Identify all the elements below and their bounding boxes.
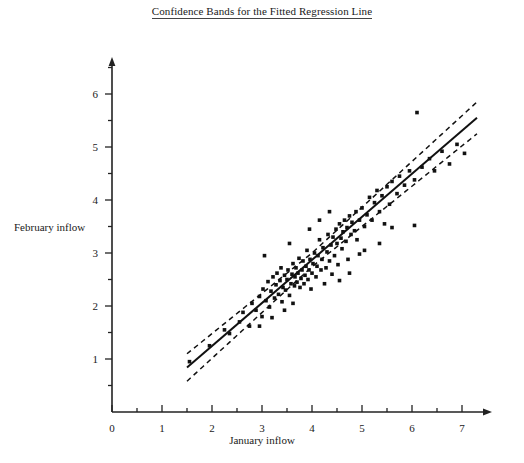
data-point — [310, 271, 314, 275]
data-point — [271, 275, 275, 279]
data-point — [254, 308, 258, 312]
data-point — [278, 279, 282, 283]
data-point — [260, 315, 264, 319]
data-point — [363, 225, 367, 229]
x-axis-label: January inflow — [0, 434, 524, 446]
data-point — [283, 308, 287, 312]
data-point — [284, 288, 288, 292]
fitted-regression-line — [187, 118, 477, 368]
data-point — [308, 227, 312, 231]
data-point — [329, 243, 333, 247]
data-point — [275, 271, 279, 275]
data-point — [413, 224, 417, 228]
data-point — [363, 249, 367, 253]
data-point — [300, 268, 304, 272]
upper-confidence-band — [187, 102, 477, 354]
data-point — [307, 268, 311, 272]
data-point — [433, 169, 437, 173]
y-axis-tick-label: 2 — [93, 300, 99, 312]
data-point — [375, 189, 379, 193]
data-point — [388, 202, 392, 206]
data-point — [365, 213, 369, 217]
data-point — [268, 305, 272, 309]
data-point — [338, 222, 342, 226]
data-point — [378, 210, 382, 214]
data-point — [297, 257, 301, 261]
data-point — [321, 246, 325, 250]
data-point — [288, 294, 292, 298]
data-point — [415, 111, 419, 115]
data-point — [319, 268, 323, 272]
data-point — [279, 266, 283, 270]
data-point — [408, 169, 412, 173]
data-point — [373, 201, 377, 205]
y-axis-tick-label: 5 — [93, 141, 99, 153]
x-axis-tick-label: 5 — [359, 422, 365, 434]
data-point — [350, 220, 354, 224]
data-point — [298, 286, 302, 290]
data-point — [328, 259, 332, 263]
y-axis-tick-label: 1 — [93, 353, 99, 365]
data-point — [250, 302, 254, 306]
data-point — [354, 210, 358, 214]
x-axis-tick-label: 6 — [409, 422, 415, 434]
data-point — [428, 157, 432, 161]
data-point — [331, 235, 335, 239]
axis-ticks-group — [105, 68, 462, 413]
y-axis-tick-label: 3 — [93, 247, 99, 259]
data-point — [295, 280, 299, 284]
data-point — [274, 283, 278, 287]
data-point — [303, 273, 307, 277]
data-point — [345, 226, 349, 230]
data-points-group — [188, 111, 467, 364]
data-point — [293, 284, 297, 288]
data-point — [301, 259, 305, 263]
data-point — [324, 266, 328, 270]
data-point — [378, 242, 382, 246]
y-axis-arrow-icon — [109, 57, 116, 66]
data-point — [368, 196, 372, 200]
data-point — [238, 320, 242, 324]
data-point — [330, 272, 334, 276]
data-point — [273, 296, 277, 300]
data-point — [280, 300, 284, 304]
data-point — [305, 249, 309, 253]
data-point — [228, 332, 232, 336]
x-axis-tick-label: 1 — [159, 422, 165, 434]
x-axis-tick-label: 4 — [309, 422, 315, 434]
data-point — [360, 206, 364, 210]
axis-tick-labels-group: 01234567123456 — [93, 88, 466, 434]
data-point — [311, 262, 315, 266]
data-point — [261, 287, 265, 291]
data-point — [390, 226, 394, 230]
data-point — [395, 192, 399, 196]
data-point — [385, 185, 389, 189]
y-axis-tick-label: 6 — [93, 88, 99, 100]
data-point — [304, 264, 308, 268]
fitted-regression-line-group — [187, 118, 477, 368]
x-axis-tick-label: 3 — [259, 422, 265, 434]
data-point — [334, 227, 338, 231]
y-axis-tick-label: 4 — [93, 194, 99, 206]
data-point — [333, 254, 337, 258]
data-point — [316, 254, 320, 258]
data-point — [323, 282, 327, 286]
data-point — [318, 238, 322, 242]
axes-group — [109, 57, 492, 416]
data-point — [296, 271, 300, 275]
data-point — [348, 214, 352, 218]
data-point — [355, 238, 359, 242]
data-point — [283, 273, 287, 277]
data-point — [344, 240, 348, 244]
data-point — [338, 279, 342, 283]
data-point — [328, 210, 332, 214]
data-point — [348, 271, 352, 275]
data-point — [188, 360, 192, 364]
data-point — [291, 302, 295, 306]
x-axis-arrow-icon — [483, 409, 492, 416]
data-point — [314, 275, 318, 279]
data-point — [263, 254, 267, 258]
data-point — [264, 299, 268, 303]
x-axis-tick-label: 7 — [459, 422, 465, 434]
data-point — [343, 218, 347, 222]
